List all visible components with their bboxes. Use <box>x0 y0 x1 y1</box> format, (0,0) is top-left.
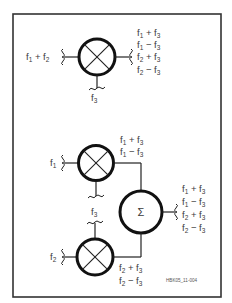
output-labels: f1 + f3 f1 − f3 <box>120 134 144 158</box>
mixer-icon <box>79 39 115 75</box>
mixer-icon <box>77 239 113 275</box>
mixer-f1: f1 f1 + f3 f1 − f3 <box>50 134 144 198</box>
figure-id-label: HBK05_11-004 <box>166 278 198 283</box>
svg-text:f1 + f3: f1 + f3 <box>120 134 144 146</box>
svg-text:f1 − f3: f1 − f3 <box>182 196 206 208</box>
mixer-diagram: f1 + f2 f3 f1 + f3 f1 − f3 f2 + f3 f2 − … <box>0 0 232 303</box>
signal-wave-icon <box>62 249 65 265</box>
svg-text:f1 + f3: f1 + f3 <box>182 183 206 195</box>
sigma-symbol: Σ <box>138 206 145 218</box>
svg-text:f1 − f3: f1 − f3 <box>137 39 161 51</box>
top-mixer: f1 + f2 f3 f1 + f3 f1 − f3 f2 + f3 f2 − … <box>26 27 161 104</box>
signal-wave-icon <box>62 155 65 171</box>
output-labels: f1 + f3 f1 − f3 f2 + f3 f2 − f3 <box>182 183 206 234</box>
signal-wave-icon <box>89 87 105 90</box>
svg-text:f2 − f3: f2 − f3 <box>137 64 161 76</box>
summer: Σ f1 + f3 f1 − f3 f2 + f3 f2 − f3 <box>120 183 206 234</box>
svg-text:f2 − f3: f2 − f3 <box>119 275 143 287</box>
svg-text:f2 + f3: f2 + f3 <box>137 51 161 63</box>
input-label-f2: f2 <box>50 251 57 263</box>
signal-wave-icon <box>175 204 178 220</box>
signal-wave-icon <box>62 49 65 65</box>
output-labels: f1 + f3 f1 − f3 f2 + f3 f2 − f3 <box>137 27 161 76</box>
svg-text:f1 + f3: f1 + f3 <box>137 27 161 39</box>
svg-text:f1 − f3: f1 − f3 <box>120 146 144 158</box>
svg-text:f2 + f3: f2 + f3 <box>182 209 206 221</box>
input-label-f1: f1 <box>50 157 57 169</box>
signal-wave-icon <box>130 49 133 65</box>
svg-text:f2 − f3: f2 − f3 <box>182 222 206 234</box>
signal-wave-icon <box>88 195 104 198</box>
mixer-icon <box>79 146 114 181</box>
svg-text:f2 + f3: f2 + f3 <box>119 262 143 274</box>
input-label-f3: f3 <box>91 206 98 218</box>
input-label-f1-plus-f2: f1 + f2 <box>26 51 50 63</box>
input-label-f3: f3 <box>91 92 98 104</box>
output-labels: f2 + f3 f2 − f3 <box>119 262 143 287</box>
